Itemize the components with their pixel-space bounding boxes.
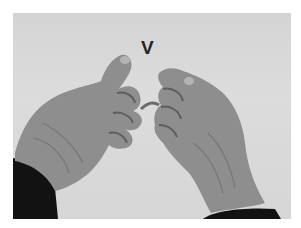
hand-sign-photo: V <box>13 13 291 219</box>
sign-letter-label: V <box>141 38 154 57</box>
